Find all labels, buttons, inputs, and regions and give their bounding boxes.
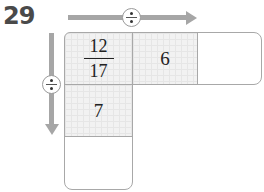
problem-number: 29 [3, 2, 34, 30]
answer-cell-row[interactable] [197, 32, 262, 85]
fraction-denominator: 17 [90, 62, 108, 80]
cell-divisor-row: 6 [132, 32, 198, 85]
cell-divisor-column: 7 [64, 84, 133, 137]
cell-fraction: 12 17 [64, 32, 133, 85]
fraction-bar [84, 58, 114, 59]
fraction: 12 17 [84, 37, 114, 80]
right-arrow-icon [186, 11, 197, 25]
answer-cell-column[interactable] [64, 136, 133, 190]
fraction-numerator: 12 [90, 37, 108, 55]
down-arrow-icon [45, 124, 59, 135]
divide-icon [122, 8, 141, 27]
divide-icon [42, 75, 61, 94]
